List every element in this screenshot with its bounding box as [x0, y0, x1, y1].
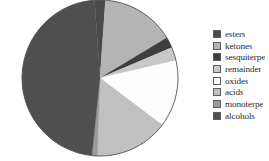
legend: estersketonessesquiterperemainderoxidesa… [213, 28, 269, 122]
legend-label: ketones [225, 41, 252, 51]
legend-label: acids [225, 87, 243, 97]
legend-label: alcohols [225, 111, 255, 121]
legend-item[interactable]: sesquiterpe [213, 51, 269, 63]
legend-swatch-icon [213, 100, 221, 108]
legend-swatch-icon [213, 65, 221, 73]
legend-swatch-icon [213, 77, 221, 85]
legend-label: monoterpe [225, 99, 263, 109]
legend-label: remainder [225, 64, 261, 74]
legend-label: esters [225, 29, 245, 39]
legend-item[interactable]: ketones [213, 40, 269, 52]
legend-swatch-icon [213, 30, 221, 38]
legend-item[interactable]: acids [213, 86, 269, 98]
legend-item[interactable]: esters [213, 28, 269, 40]
legend-label: sesquiterpe [225, 52, 265, 62]
legend-item[interactable]: alcohols [213, 110, 269, 122]
legend-item[interactable]: monoterpe [213, 98, 269, 110]
pie-chart-svg [0, 0, 200, 161]
legend-item[interactable]: remainder [213, 63, 269, 75]
chart-figure: estersketonessesquiterperemainderoxidesa… [0, 0, 269, 161]
legend-swatch-icon [213, 53, 221, 61]
legend-swatch-icon [213, 88, 221, 96]
legend-item[interactable]: oxides [213, 75, 269, 87]
legend-swatch-icon [213, 42, 221, 50]
legend-label: oxides [225, 76, 248, 86]
legend-swatch-icon [213, 112, 221, 120]
pie-slice[interactable] [22, 0, 100, 155]
pie-slice-group [22, 0, 178, 156]
pie-chart-area [0, 0, 200, 161]
